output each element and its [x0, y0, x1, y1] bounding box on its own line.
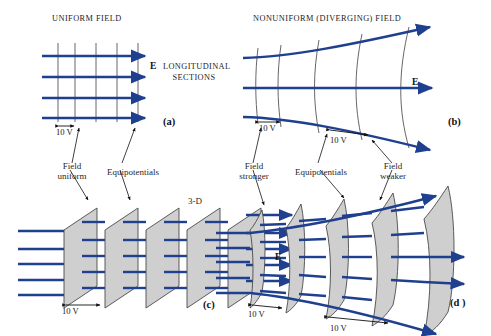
annotation-equipotentials-a: Equipotentials [96, 167, 170, 177]
spacing-indicators-d [252, 305, 388, 323]
panel-c-uniform-3d [18, 170, 292, 308]
panel-marker-b: (b) [448, 116, 461, 128]
spacing-label-d1: 10 V [248, 310, 265, 320]
panel-a-uniform-longitudinal [42, 43, 145, 163]
annotation-field-stronger-line1: Field [231, 161, 277, 171]
annotation-field-stronger-line2: stronger [231, 171, 277, 181]
center-label-line1: LONGITUDINAL [163, 62, 225, 71]
panel-marker-c: (c) [203, 299, 215, 311]
leader-lines-a [72, 128, 135, 163]
field-symbol-c: E [275, 252, 281, 263]
field-lines-a [42, 56, 145, 118]
three-d-label: 3-D [188, 196, 202, 206]
title-uniform-field: UNIFORM FIELD [52, 14, 122, 23]
annotation-field-weaker-line2: weaker [370, 171, 416, 181]
spacing-label-b2: 10 V [330, 136, 347, 146]
spacing-label-c: 10 V [62, 307, 79, 317]
annotation-field-uniform-line1: Field [49, 161, 95, 171]
spacing-label-b1: 10 V [259, 124, 276, 134]
annotation-field-uniform-line2: uniform [49, 171, 95, 181]
panel-marker-a: (a) [163, 116, 175, 128]
annotation-field-weaker-line1: Field [370, 161, 416, 171]
title-nonuniform-field: NONUNIFORM (DIVERGING) FIELD [253, 14, 401, 23]
field-symbol-b: E [412, 77, 418, 88]
equipotential-surface-d4 [372, 193, 398, 326]
spacing-label-a: 10 V [56, 128, 73, 138]
spacing-label-d2: 10 V [330, 324, 347, 334]
field-lines-c-back [18, 231, 64, 295]
field-symbol-a: E [150, 61, 156, 72]
equipotential-surface-d5 [424, 186, 454, 336]
panel-marker-d: (d ) [450, 297, 465, 309]
annotation-equipotentials-b: Equipotentials [284, 167, 358, 177]
center-label-line2: SECTIONS [163, 73, 225, 82]
